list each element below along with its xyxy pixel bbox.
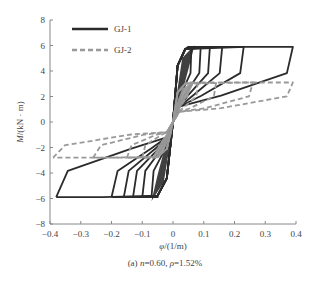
x-tick-label: 0.3 (260, 229, 272, 239)
plot-series (53, 45, 293, 201)
axes: 86420−2−4−6−8 −0.4−0.3−0.2−0.100.10.20.3… (35, 15, 302, 239)
hysteresis-chart: 86420−2−4−6−8 −0.4−0.3−0.2−0.100.10.20.3… (0, 0, 318, 285)
x-tick-label: −0.3 (73, 229, 90, 239)
x-axis-title: φ/(1/m) (159, 241, 186, 251)
legend: GJ-1 GJ-2 (72, 24, 132, 55)
y-tick-label: 0 (41, 117, 46, 127)
hysteresis-loop (56, 47, 293, 197)
y-axis-title: M/(kN · m) (15, 101, 25, 144)
x-tick-label: 0 (171, 229, 176, 239)
legend-label-gj2: GJ-2 (114, 45, 132, 55)
legend-label-gj1: GJ-1 (114, 24, 132, 34)
y-tick-label: −6 (35, 194, 45, 204)
x-tick-label: −0.4 (42, 229, 59, 239)
x-tick-label: 0.2 (229, 229, 240, 239)
x-tick-label: 0.1 (198, 229, 209, 239)
y-tick-label: 8 (41, 15, 46, 25)
y-tick-label: 6 (41, 41, 46, 51)
hysteresis-loop (142, 47, 200, 197)
y-tick-label: 2 (41, 92, 46, 102)
x-tick-label: 0.4 (290, 229, 302, 239)
y-tick-label: −4 (35, 168, 45, 178)
series-gj-2 (53, 82, 293, 160)
series-gj-1 (56, 45, 293, 201)
figure-caption: (a) n=0.60, ρ=1.52% (128, 258, 203, 268)
y-tick-label: −2 (35, 143, 45, 153)
x-tick-label: −0.2 (103, 229, 119, 239)
y-tick-label: −8 (35, 219, 45, 229)
y-tick-label: 4 (41, 66, 46, 76)
x-tick-label: −0.1 (134, 229, 150, 239)
